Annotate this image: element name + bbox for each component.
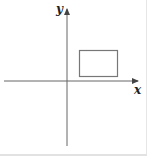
rectangle-shape — [80, 51, 118, 77]
y-axis-label: y — [56, 3, 63, 15]
diagram-frame: y x — [0, 0, 147, 156]
x-axis-label: x — [134, 84, 141, 96]
coordinate-plane — [0, 0, 148, 160]
